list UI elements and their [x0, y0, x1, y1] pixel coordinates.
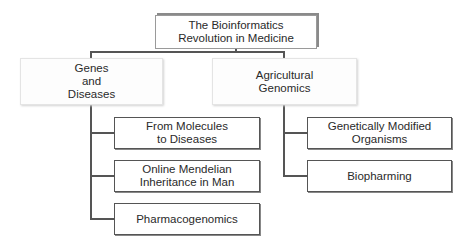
- genes-drop-connector: [90, 51, 92, 58]
- node-pharmacogenomics: Pharmacogenomics: [114, 203, 260, 235]
- node-from-molecules-to-diseases: From Molecules to Diseases: [114, 117, 260, 149]
- root-node: The Bioinformatics Revolution in Medicin…: [155, 15, 317, 49]
- category-genes-and-diseases: Genes and Diseases: [20, 58, 163, 105]
- genes-branch-1: [90, 132, 114, 134]
- node-omim: Online Mendelian Inheritance in Man: [114, 160, 260, 192]
- agri-drop-connector: [283, 51, 285, 58]
- top-horizontal-connector: [90, 51, 285, 53]
- agri-branch-1: [283, 132, 307, 134]
- node-biopharming: Biopharming: [307, 160, 452, 192]
- genes-branch-2: [90, 175, 114, 177]
- agri-branch-2: [283, 175, 307, 177]
- genes-branch-3: [90, 218, 114, 220]
- category-agricultural-genomics: Agricultural Genomics: [212, 58, 357, 105]
- node-genetically-modified-organisms: Genetically Modified Organisms: [307, 117, 452, 149]
- genes-trunk: [90, 105, 92, 220]
- agri-trunk: [283, 105, 285, 177]
